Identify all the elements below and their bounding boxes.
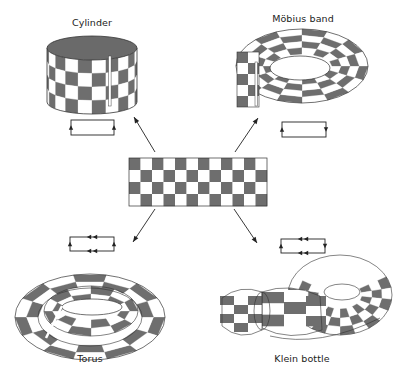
arrow-to-torus [133, 209, 155, 242]
label-klein-bottle: Klein bottle [274, 353, 329, 364]
cylinder-seam [109, 56, 112, 106]
label-cylinder: Cylinder [72, 17, 112, 28]
arrow-to-cylinder [134, 117, 155, 152]
checkered-rectangle [129, 158, 267, 206]
klein-bottle-shape [220, 255, 392, 339]
mobius-shape [236, 29, 368, 107]
diagram-canvas: Cylinder Möbius band Torus Klein bottle [0, 0, 399, 376]
torus-shape [15, 274, 165, 360]
gluing-diagram-torus [68, 235, 116, 253]
cylinder-shape [40, 36, 150, 120]
label-torus: Torus [77, 353, 102, 364]
arrow-to-mobius [235, 118, 258, 152]
gluing-diagram-klein [279, 237, 327, 255]
gluing-diagram-cylinder [69, 120, 116, 135]
arrow-to-klein [234, 209, 257, 243]
label-mobius-band: Möbius band [272, 13, 334, 24]
diagram-artwork [0, 0, 399, 376]
gluing-diagram-mobius [280, 122, 328, 137]
